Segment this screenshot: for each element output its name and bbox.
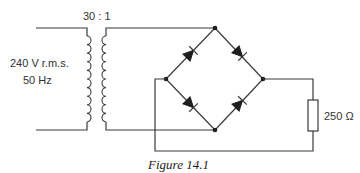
primary-bottom-lead — [36, 122, 87, 130]
source-voltage-label: 240 V r.m.s. — [10, 57, 69, 69]
node-top — [213, 26, 218, 31]
source-frequency-label: 50 Hz — [23, 74, 52, 86]
load-resistor-icon — [308, 100, 318, 131]
load-return-wire — [155, 79, 313, 151]
primary-coil-icon — [87, 36, 91, 122]
load-supply-wire — [263, 79, 313, 100]
secondary-coil-icon — [102, 36, 106, 122]
secondary-bottom-lead — [106, 122, 215, 130]
circuit-diagram: 30 : 1 240 V r.m.s. 50 Hz — [0, 0, 360, 173]
bridge-rectifier — [164, 26, 266, 133]
secondary-top-lead — [106, 28, 215, 36]
load-resistance-label: 250 Ω — [324, 110, 354, 122]
node-bottom — [213, 128, 218, 133]
figure-caption: Figure 14.1 — [147, 157, 209, 172]
primary-top-lead — [36, 28, 87, 36]
transformer-ratio-label: 30 : 1 — [83, 10, 111, 22]
